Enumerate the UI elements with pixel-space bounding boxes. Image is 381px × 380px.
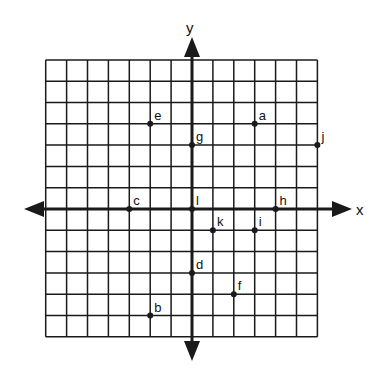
point-label: g xyxy=(196,129,203,144)
point-dot-icon xyxy=(252,227,258,233)
point-j: j xyxy=(314,129,324,148)
point-label: d xyxy=(196,257,203,272)
y-axis-bottom-arrow-icon xyxy=(184,341,200,361)
point-dot-icon xyxy=(252,121,258,127)
point-dot-icon xyxy=(147,121,153,127)
point-dot-icon xyxy=(126,206,132,212)
point-dot-icon xyxy=(189,142,195,148)
point-label: c xyxy=(133,193,140,208)
point-label: l xyxy=(196,193,199,208)
x-axis-left-arrow-icon xyxy=(24,201,44,217)
coordinate-plane: x y abcdefghijkl xyxy=(0,0,381,380)
point-label: b xyxy=(154,300,161,315)
point-dot-icon xyxy=(231,291,237,297)
plotted-points: abcdefghijkl xyxy=(126,108,324,319)
point-label: k xyxy=(217,214,224,229)
point-label: f xyxy=(238,278,242,293)
point-dot-icon xyxy=(210,227,216,233)
grid-lines xyxy=(46,60,318,337)
point-label: j xyxy=(320,129,324,144)
point-dot-icon xyxy=(189,206,195,212)
x-axis-right-arrow-icon xyxy=(332,201,352,217)
point-label: i xyxy=(259,214,262,229)
point-dot-icon xyxy=(314,142,320,148)
point-dot-icon xyxy=(189,270,195,276)
point-label: a xyxy=(259,108,267,123)
point-label: e xyxy=(154,108,161,123)
x-axis-label: x xyxy=(356,201,364,218)
y-axis-label: y xyxy=(186,19,194,36)
point-dot-icon xyxy=(147,313,153,319)
y-axis-top-arrow-icon xyxy=(184,37,200,57)
point-dot-icon xyxy=(273,206,279,212)
point-label: h xyxy=(280,193,287,208)
axes: x y xyxy=(24,19,364,361)
